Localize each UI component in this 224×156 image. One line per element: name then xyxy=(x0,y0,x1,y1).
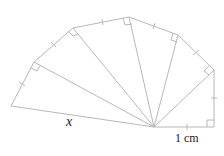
right-angle-marker xyxy=(204,66,209,75)
spoke xyxy=(73,28,154,127)
spoke xyxy=(154,35,178,127)
hypotenuse-x xyxy=(11,106,154,127)
spoke xyxy=(129,17,154,127)
spoke xyxy=(154,70,214,127)
right-angle-marker xyxy=(207,120,214,127)
hypotenuse-label: x xyxy=(66,114,72,130)
unit-length-label: 1 cm xyxy=(175,131,199,146)
tick-mark xyxy=(102,19,103,25)
right-angle-marker xyxy=(31,66,40,71)
right-angle-marker xyxy=(123,18,132,25)
spoke xyxy=(34,62,154,127)
